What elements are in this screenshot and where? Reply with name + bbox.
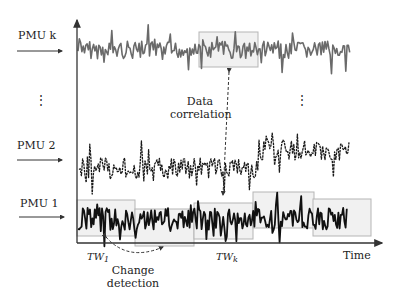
pmu-1-label: PMU 1: [20, 197, 58, 210]
ellipsis-left: ⋮: [35, 93, 47, 107]
tw-1-label: TW1: [87, 251, 109, 264]
tw-k-sub: k: [233, 255, 238, 264]
change-detection-label: Change detection: [103, 264, 163, 290]
data-correlation-line2: correlation: [170, 108, 230, 121]
time-window-4: [253, 192, 314, 228]
data-correlation-label: Data correlation: [170, 95, 230, 121]
tw-k-label: TWk: [216, 251, 238, 264]
data-correlation-arrow: [223, 72, 229, 195]
pmu-2-signal: [79, 133, 349, 194]
tw-1-sub: 1: [104, 255, 109, 264]
tw-1-base: TW: [87, 251, 104, 262]
tw-k-base: TW: [216, 251, 233, 262]
pmu-2-label: PMU 2: [17, 139, 55, 152]
change-detection-line1: Change: [103, 264, 163, 277]
x-axis-label: Time: [343, 249, 371, 262]
change-detection-line2: detection: [103, 277, 163, 290]
ellipsis-right: ⋮: [296, 93, 308, 107]
pmu-k-label: PMU k: [18, 29, 56, 42]
data-correlation-line1: Data: [170, 95, 230, 108]
diagram-canvas: [0, 0, 398, 302]
